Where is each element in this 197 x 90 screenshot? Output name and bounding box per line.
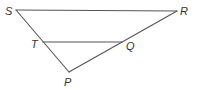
label-q: Q [126,40,135,52]
geometry-diagram: S R T Q P [0,0,197,90]
label-s: S [5,5,13,17]
segment-sp [16,10,69,72]
label-p: P [64,76,72,88]
label-t: T [31,38,39,50]
diagram-svg: S R T Q P [0,0,197,90]
segment-sr [16,10,177,11]
label-r: R [180,5,188,17]
